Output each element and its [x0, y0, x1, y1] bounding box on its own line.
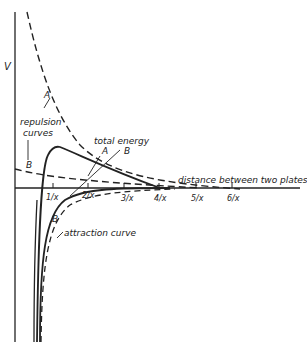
total-a-label: A [101, 146, 108, 156]
attraction-curve [41, 189, 175, 342]
tick-label-3: 3/x [121, 194, 134, 203]
potential-energy-diagram: V A repulsion curves B total energy A B … [0, 0, 307, 350]
attraction-curve-label: attraction curve [64, 228, 137, 238]
repulsion-b-label: B [26, 160, 32, 170]
repulsion-a-label: A [43, 90, 50, 100]
total-energy-label: total energy [94, 136, 150, 146]
x-axis-label: distance between two plates [178, 175, 307, 185]
tick-label-4: 4/x [154, 194, 167, 203]
y-axis-label: V [4, 61, 12, 72]
repulsion-label-line2: curves [23, 128, 53, 138]
tick-label-6: 6/x [227, 194, 240, 203]
tick-label-5: 5/x [191, 194, 204, 203]
total-energy-curve-b [40, 188, 170, 342]
tick-label-2: 2/x [82, 191, 95, 200]
tick-label-1: 1/x [46, 193, 59, 202]
repulsion-curve-a [27, 12, 240, 189]
attraction-b-label: B [52, 214, 58, 224]
repulsion-label-line1: repulsion [20, 117, 62, 127]
total-b-label: B [124, 146, 130, 156]
